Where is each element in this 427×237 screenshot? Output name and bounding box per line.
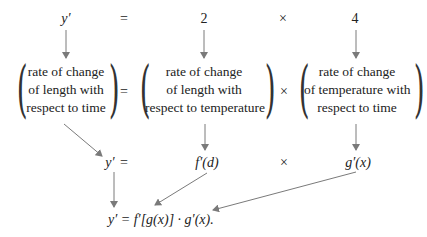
mid-yprime: y′ [105,156,114,170]
box2-line: of length with [145,81,263,99]
top-factor-2: 2 [201,12,208,26]
chain-rule-result: y′ = f′[g(x)] · g′(x). [108,213,214,227]
box1-line: respect to time [26,99,106,117]
right-paren-3: ) [414,58,425,120]
box-rate-temperature-time: rate of change of temperature with respe… [304,63,410,117]
box-rate-length-temperature: rate of change of length with respect to… [145,63,263,117]
top-yprime: y′ [61,12,70,26]
box3-line: respect to time [304,99,410,117]
top-equals: = [120,12,128,26]
mid-gprime-x: g′(x) [345,156,371,170]
arrow-box1-to-yprime [64,124,102,156]
box-rate-length-time: rate of change of length with respect to… [26,63,106,117]
mid-fprime-d: f′(d) [195,156,218,170]
box2-line: rate of change [145,63,263,81]
arrow-gprime-to-result [213,172,356,210]
box3-line: of temperature with [304,81,410,99]
box3-line: rate of change [304,63,410,81]
right-paren-1: ) [109,58,120,120]
arrow-fprime-to-result [155,173,207,205]
box1-line: of length with [26,81,106,99]
box2-line: respect to temperature [145,99,263,117]
word-times: × [280,85,288,99]
top-factor-4: 4 [352,12,359,26]
arrows-layer [0,0,427,237]
top-times: × [279,12,287,26]
box1-line: rate of change [26,63,106,81]
mid-times: × [280,156,288,170]
mid-equals: = [120,156,128,170]
right-paren-2: ) [265,58,276,120]
word-equals: = [120,85,128,99]
